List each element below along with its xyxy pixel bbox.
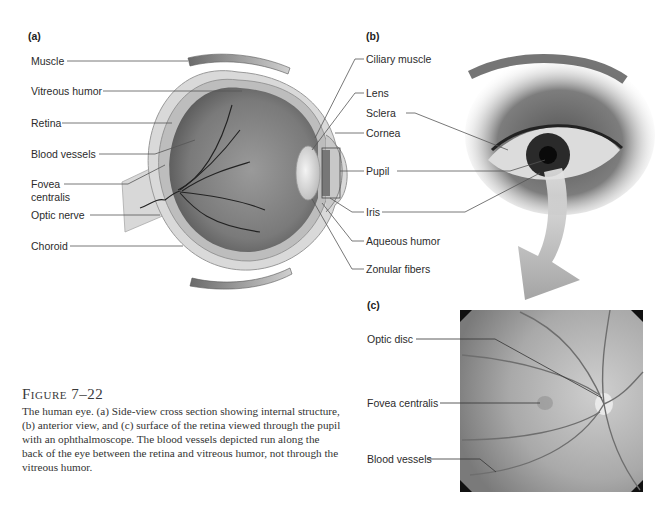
eye-cross-section [122, 54, 347, 289]
label-blood-vessels-c: Blood vessels [367, 453, 432, 465]
label-retina: Retina [31, 117, 61, 129]
label-cornea: Cornea [366, 127, 400, 139]
label-vitreous-humor: Vitreous humor [31, 85, 102, 97]
label-pupil: Pupil [366, 165, 389, 177]
panel-b-tag: (b) [366, 30, 379, 42]
panel-a-tag: (a) [28, 30, 41, 42]
label-choroid: Choroid [31, 240, 68, 252]
label-zonular-fibers: Zonular fibers [366, 263, 430, 275]
label-lens: Lens [366, 87, 389, 99]
figure-number: Figure 7–22 [22, 386, 342, 403]
label-fovea-centralis-c: Fovea centralis [367, 397, 438, 409]
label-sclera: Sclera [366, 107, 396, 119]
figure-caption: Figure 7–22 The human eye. (a) Side-view… [22, 386, 342, 474]
label-ciliary-muscle: Ciliary muscle [366, 53, 431, 65]
label-aqueous-humor: Aqueous humor [366, 235, 440, 247]
label-muscle: Muscle [31, 55, 64, 67]
panel-c-tag: (c) [367, 299, 380, 311]
label-blood-vessels: Blood vessels [31, 148, 96, 160]
label-iris: Iris [366, 206, 380, 218]
label-optic-nerve: Optic nerve [31, 209, 85, 221]
label-fovea: Fovea [31, 178, 60, 190]
label-optic-disc: Optic disc [367, 333, 413, 345]
label-centralis: centralis [31, 191, 70, 203]
figure-caption-text: The human eye. (a) Side-view cross secti… [22, 404, 342, 474]
